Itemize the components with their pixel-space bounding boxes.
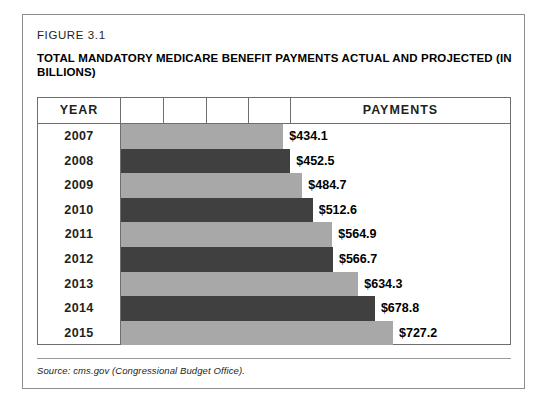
row-year-label: 2012 [38, 247, 121, 272]
value-label: $678.8 [375, 296, 419, 321]
column-header-year: YEAR [38, 98, 121, 123]
figure-title: TOTAL MANDATORY MEDICARE BENEFIT PAYMENT… [37, 51, 517, 79]
value-label: $434.1 [283, 124, 327, 149]
value-label: $484.7 [302, 173, 346, 198]
value-label: $566.7 [333, 247, 377, 272]
value-bar [121, 222, 332, 247]
table-row: 2008$452.5 [38, 149, 510, 174]
figure-label: FIGURE 3.1 [37, 29, 106, 41]
column-header-blank-4 [249, 98, 291, 123]
value-label: $512.6 [313, 198, 357, 223]
source-note: Source: cms.gov (Congressional Budget Of… [37, 365, 245, 376]
table-row: 2015$727.2 [38, 321, 510, 346]
table-row: 2014$678.8 [38, 296, 510, 321]
row-year-label: 2010 [38, 198, 121, 223]
column-header-blank-2 [164, 98, 207, 123]
table-body: 2007$434.12008$452.52009$484.72010$512.6… [38, 124, 510, 344]
row-year-label: 2007 [38, 124, 121, 149]
value-bar [121, 198, 313, 223]
value-label: $727.2 [393, 321, 437, 346]
value-bar [121, 124, 283, 149]
value-bar [121, 272, 358, 297]
value-label: $452.5 [290, 149, 334, 174]
row-year-label: 2013 [38, 272, 121, 297]
value-label: $634.3 [358, 272, 402, 297]
table-row: 2007$434.1 [38, 124, 510, 149]
table-row: 2010$512.6 [38, 198, 510, 223]
row-year-label: 2009 [38, 173, 121, 198]
table-header-row: YEAR PAYMENTS [38, 98, 510, 124]
row-year-label: 2014 [38, 296, 121, 321]
table-row: 2009$484.7 [38, 173, 510, 198]
row-year-label: 2015 [38, 321, 121, 346]
table-row: 2012$566.7 [38, 247, 510, 272]
table-row: 2013$634.3 [38, 272, 510, 297]
row-year-label: 2008 [38, 149, 121, 174]
chart-table: YEAR PAYMENTS 2007$434.12008$452.52009$4… [37, 97, 511, 345]
figure-frame: FIGURE 3.1 TOTAL MANDATORY MEDICARE BENE… [22, 14, 525, 389]
value-label: $564.9 [332, 222, 376, 247]
value-bar [121, 247, 333, 272]
column-header-payments: PAYMENTS [291, 98, 510, 123]
column-header-blank-1 [121, 98, 164, 123]
value-bar [121, 321, 393, 346]
column-header-blank-3 [207, 98, 249, 123]
value-bar [121, 296, 375, 321]
table-row: 2011$564.9 [38, 222, 510, 247]
row-year-label: 2011 [38, 222, 121, 247]
value-bar [121, 173, 302, 198]
source-divider [37, 358, 511, 359]
value-bar [121, 149, 290, 174]
